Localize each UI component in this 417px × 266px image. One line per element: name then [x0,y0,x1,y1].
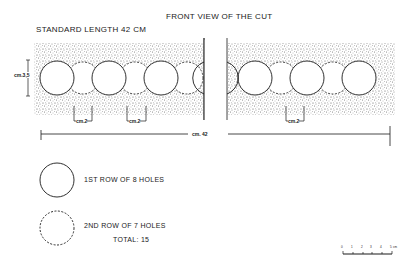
spacing-label-3: cm.2 [288,118,299,124]
height-dimension [26,60,30,96]
total-label: TOTAL: 15 [113,236,149,243]
spacing-label-2: cm.2 [129,118,140,124]
total-length-label: cm. 42 [192,131,208,137]
legend-solid-circle-icon [40,163,74,197]
left-strip [34,38,227,120]
scale-bar [343,251,392,254]
height-label: cm.3,5 [14,72,30,78]
legend-label-row-1: 1ST ROW OF 8 HOLES [84,176,164,183]
legend-label-row-2: 2ND ROW OF 7 HOLES [84,222,166,229]
diagram-title: FRONT VIEW OF THE CUT [166,12,272,21]
right-strip [205,38,417,120]
legend-dashed-circle-icon [40,211,74,245]
spacing-label-1: cm.2 [76,118,87,124]
total-length-dimension [41,126,390,146]
diagram-subtitle: STANDARD LENGTH 42 CM [36,25,146,34]
cut-diagram [0,0,417,266]
